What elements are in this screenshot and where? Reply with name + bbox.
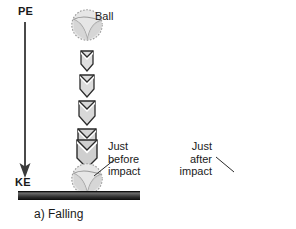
energy-transfer-diagram: PE KE Ball — [0, 0, 296, 229]
energy-axis-falling: PE KE — [8, 6, 54, 202]
annotation-line-2: before — [108, 153, 140, 166]
annotation-just-after-impact: Just after impact — [156, 140, 212, 178]
annotation-line-3: impact — [156, 165, 212, 178]
ground-line-falling — [18, 191, 140, 200]
annotation-line-2: after — [156, 153, 212, 166]
panel-falling: PE KE Ball — [0, 0, 148, 229]
leader-line-rising — [214, 155, 238, 175]
annotation-line-3: impact — [108, 165, 140, 178]
panel-rising: Just after impact PE KE b) Rising — [148, 0, 296, 229]
axis-label-pe-left: PE — [18, 6, 33, 17]
axis-label-ke-left: KE — [15, 177, 31, 188]
chevron-down-icon-1 — [76, 50, 98, 72]
chevron-down-icon-2 — [75, 74, 99, 98]
annotation-line-1: Just — [108, 140, 140, 153]
chevron-down-icon-3 — [74, 100, 100, 126]
caption-falling: a) Falling — [34, 207, 83, 221]
annotation-line-1: Just — [156, 140, 212, 153]
axis-arrow-down-icon — [8, 6, 54, 202]
annotation-just-before-impact: Just before impact — [108, 140, 140, 178]
label-ball-falling: Ball — [95, 10, 113, 23]
